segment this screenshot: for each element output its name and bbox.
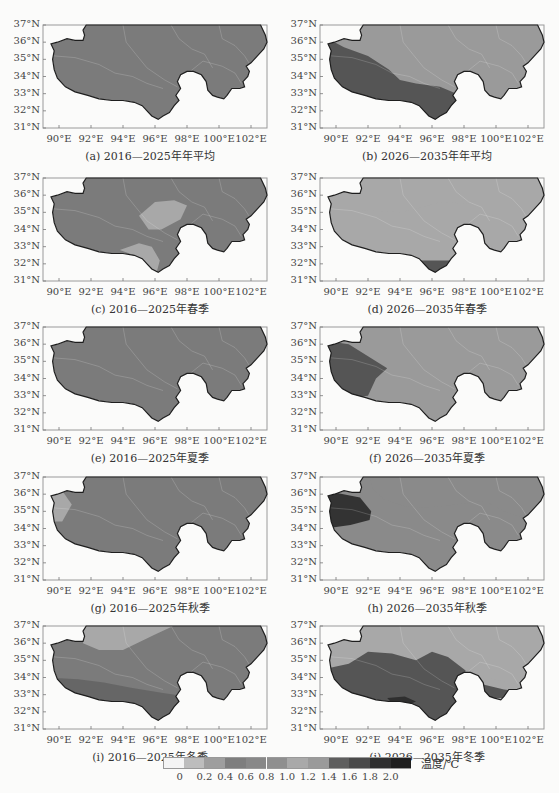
legend-swatch (246, 757, 267, 769)
map-panel-b: 37°N36°N35°N34°N33°N32°N31°N90°E92°E94°E… (277, 25, 547, 175)
legend-swatch (329, 757, 350, 769)
latitude-tick-label: 31°N (281, 121, 317, 132)
longitude-tick-label: 102°E (508, 133, 548, 144)
longitude-tick-label: 102°E (231, 585, 271, 596)
panel-caption: (d) 2026—2035年春季 (297, 300, 557, 316)
latitude-tick-label: 37°N (4, 171, 40, 182)
latitude-tick-label: 32°N (281, 104, 317, 115)
latitude-tick-label: 33°N (281, 389, 317, 400)
latitude-tick-label: 34°N (4, 372, 40, 383)
legend-swatch (349, 757, 370, 769)
panel-caption: (b) 2026—2035年年平均 (297, 147, 557, 163)
latitude-tick-label: 35°N (281, 205, 317, 216)
panel-caption: (e) 2016—2025年夏季 (20, 449, 280, 465)
latitude-tick-label: 37°N (281, 470, 317, 481)
longitude-tick-label: 102°E (231, 734, 271, 745)
latitude-tick-label: 33°N (4, 539, 40, 550)
latitude-tick-label: 32°N (4, 257, 40, 268)
latitude-tick-label: 35°N (281, 354, 317, 365)
legend-swatch (225, 757, 246, 769)
latitude-tick-label: 31°N (4, 121, 40, 132)
latitude-tick-label: 33°N (4, 688, 40, 699)
latitude-tick-label: 32°N (4, 705, 40, 716)
latitude-tick-label: 36°N (281, 188, 317, 199)
longitude-tick-label: 102°E (508, 585, 548, 596)
latitude-tick-label: 31°N (4, 274, 40, 285)
legend-swatch (184, 757, 205, 769)
legend-swatch (370, 757, 391, 769)
legend-swatch (287, 757, 308, 769)
legend-swatch (267, 757, 288, 769)
latitude-tick-label: 33°N (4, 240, 40, 251)
legend-tick: 2.0 (379, 771, 403, 782)
legend-tick: 0 (168, 771, 192, 782)
panel-caption: (f) 2026—2035年夏季 (297, 449, 557, 465)
latitude-tick-label: 34°N (4, 70, 40, 81)
latitude-tick-label: 32°N (281, 705, 317, 716)
latitude-tick-label: 37°N (4, 619, 40, 630)
longitude-tick-label: 102°E (508, 734, 548, 745)
latitude-tick-label: 34°N (281, 671, 317, 682)
latitude-tick-label: 33°N (281, 87, 317, 98)
latitude-tick-label: 36°N (4, 337, 40, 348)
latitude-tick-label: 32°N (281, 257, 317, 268)
panel-caption: (c) 2016—2025年春季 (20, 300, 280, 316)
latitude-tick-label: 31°N (4, 722, 40, 733)
latitude-tick-label: 35°N (4, 653, 40, 664)
latitude-tick-label: 37°N (281, 171, 317, 182)
latitude-tick-label: 31°N (281, 573, 317, 584)
legend-unit-label: 温度/℃ (421, 755, 459, 771)
latitude-tick-label: 37°N (281, 320, 317, 331)
latitude-tick-label: 33°N (281, 240, 317, 251)
latitude-tick-label: 36°N (4, 487, 40, 498)
latitude-tick-label: 32°N (4, 556, 40, 567)
map-panel-h: 37°N36°N35°N34°N33°N32°N31°N90°E92°E94°E… (277, 477, 547, 627)
latitude-tick-label: 37°N (4, 18, 40, 29)
latitude-tick-label: 33°N (281, 688, 317, 699)
latitude-tick-label: 33°N (281, 539, 317, 550)
longitude-tick-label: 102°E (231, 286, 271, 297)
latitude-tick-label: 33°N (4, 389, 40, 400)
latitude-tick-label: 34°N (281, 70, 317, 81)
map-panel-f: 37°N36°N35°N34°N33°N32°N31°N90°E92°E94°E… (277, 327, 547, 477)
latitude-tick-label: 32°N (281, 556, 317, 567)
latitude-tick-label: 34°N (4, 671, 40, 682)
latitude-tick-label: 36°N (4, 636, 40, 647)
map-panel-g: 37°N36°N35°N34°N33°N32°N31°N90°E92°E94°E… (0, 477, 270, 627)
longitude-tick-label: 102°E (231, 133, 271, 144)
legend-swatch (163, 757, 185, 769)
latitude-tick-label: 36°N (4, 188, 40, 199)
latitude-tick-label: 33°N (4, 87, 40, 98)
map-panel-c: 37°N36°N35°N34°N33°N32°N31°N90°E92°E94°E… (0, 178, 270, 328)
latitude-tick-label: 31°N (281, 423, 317, 434)
latitude-tick-label: 36°N (281, 337, 317, 348)
map-panel-i: 37°N36°N35°N34°N33°N32°N31°N90°E92°E94°E… (0, 626, 270, 776)
latitude-tick-label: 35°N (4, 205, 40, 216)
latitude-tick-label: 35°N (4, 354, 40, 365)
longitude-tick-label: 102°E (508, 286, 548, 297)
latitude-tick-label: 34°N (281, 372, 317, 383)
longitude-tick-label: 102°E (231, 435, 271, 446)
latitude-tick-label: 35°N (281, 653, 317, 664)
latitude-tick-label: 34°N (4, 223, 40, 234)
latitude-tick-label: 31°N (281, 274, 317, 285)
latitude-tick-label: 31°N (4, 423, 40, 434)
latitude-tick-label: 34°N (281, 223, 317, 234)
legend-swatch (204, 757, 225, 769)
latitude-tick-label: 36°N (281, 35, 317, 46)
latitude-tick-label: 36°N (281, 636, 317, 647)
latitude-tick-label: 35°N (4, 504, 40, 515)
latitude-tick-label: 35°N (281, 504, 317, 515)
latitude-tick-label: 37°N (4, 470, 40, 481)
latitude-tick-label: 32°N (281, 406, 317, 417)
latitude-tick-label: 37°N (4, 320, 40, 331)
panel-caption: (a) 2016—2025年年平均 (20, 147, 280, 163)
color-legend: 00.20.40.60.81.01.21.41.61.82.0 温度/℃ (163, 757, 463, 787)
latitude-tick-label: 34°N (281, 522, 317, 533)
panel-caption: (g) 2016—2025年秋季 (20, 599, 280, 615)
latitude-tick-label: 37°N (281, 619, 317, 630)
map-panel-j: 37°N36°N35°N34°N33°N32°N31°N90°E92°E94°E… (277, 626, 547, 776)
latitude-tick-label: 32°N (4, 104, 40, 115)
panel-caption: (h) 2026—2035年秋季 (297, 599, 557, 615)
latitude-tick-label: 36°N (281, 487, 317, 498)
